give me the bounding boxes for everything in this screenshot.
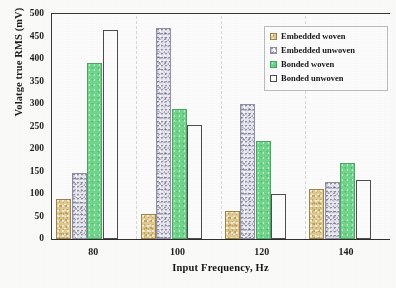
- x-tick-label: 120: [254, 246, 269, 257]
- x-axis-title: Input Frequency, Hz: [51, 262, 390, 273]
- bar-embedded-woven: [141, 214, 156, 239]
- legend-item: Embedded unwoven: [270, 44, 383, 57]
- bar-bonded-woven: [87, 63, 102, 239]
- y-tick-label: 50: [14, 211, 44, 220]
- bar-embedded-unwoven: [240, 104, 255, 239]
- y-tick-label: 200: [14, 144, 44, 153]
- bar-bonded-woven: [256, 141, 271, 239]
- x-tick-label: 140: [338, 246, 353, 257]
- bar-bonded-unwoven: [187, 125, 202, 239]
- y-tick-label: 0: [14, 234, 44, 243]
- bar-embedded-woven: [56, 199, 71, 239]
- bar-chart-figure: Volatge true RMS (mV) 050100150200250300…: [0, 0, 396, 288]
- y-tick-label: 100: [14, 189, 44, 198]
- legend-swatch-icon: [270, 61, 277, 68]
- bar-embedded-unwoven: [156, 28, 171, 240]
- y-tick-label: 350: [14, 76, 44, 85]
- y-tick-label: 400: [14, 54, 44, 63]
- bar-embedded-woven: [309, 189, 324, 239]
- group-separator: [136, 16, 137, 239]
- y-axis-tick-labels: 050100150200250300350400450500: [14, 8, 44, 240]
- legend-label: Bonded woven: [281, 60, 334, 69]
- bar-bonded-unwoven: [271, 194, 286, 239]
- legend-item: Bonded unwoven: [270, 72, 383, 85]
- bar-bonded-woven: [172, 109, 187, 239]
- y-tick-label: 300: [14, 99, 44, 108]
- group-separator: [221, 16, 222, 239]
- legend-label: Embedded unwoven: [281, 46, 355, 55]
- bar-group: [136, 14, 220, 239]
- legend-label: Bonded unwoven: [281, 74, 344, 83]
- bar-embedded-unwoven: [325, 182, 340, 239]
- y-tick-label: 450: [14, 31, 44, 40]
- bar-bonded-woven: [340, 163, 355, 239]
- bar-bonded-unwoven: [103, 30, 118, 239]
- legend-label: Embedded woven: [281, 32, 345, 41]
- chart-legend: Embedded wovenEmbedded unwovenBonded wov…: [264, 26, 388, 91]
- legend-swatch-icon: [270, 33, 277, 40]
- bar-embedded-woven: [225, 211, 240, 239]
- y-tick-label: 150: [14, 166, 44, 175]
- bar-group: [52, 14, 136, 239]
- x-tick-label: 100: [170, 246, 185, 257]
- bar-bonded-unwoven: [356, 180, 371, 239]
- x-axis-tick-labels: 80100120140: [51, 246, 390, 262]
- legend-swatch-icon: [270, 47, 277, 54]
- legend-item: Bonded woven: [270, 58, 383, 71]
- y-tick-label: 250: [14, 121, 44, 130]
- legend-swatch-icon: [270, 75, 277, 82]
- x-tick-label: 80: [88, 246, 98, 257]
- bar-embedded-unwoven: [72, 173, 87, 239]
- legend-item: Embedded woven: [270, 30, 383, 43]
- y-tick-label: 500: [14, 9, 44, 18]
